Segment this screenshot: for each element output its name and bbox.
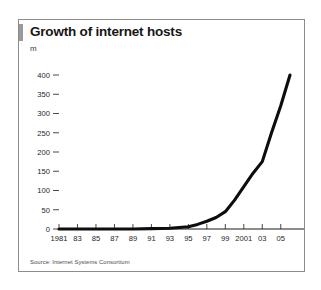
series-internet-hosts-line bbox=[59, 75, 290, 229]
x-tick-label: 87 bbox=[110, 234, 118, 243]
y-tick-label: 100 bbox=[37, 186, 50, 195]
y-tick-label: 200 bbox=[37, 148, 50, 157]
y-tick-label: 150 bbox=[37, 167, 50, 176]
source-note: Source: Internet Systems Consortium bbox=[30, 259, 130, 265]
x-tick-label: 93 bbox=[166, 234, 174, 243]
x-tick-label: 89 bbox=[129, 234, 137, 243]
plot-area: 050100150200250300350400 198183858789919… bbox=[19, 20, 304, 271]
x-tick-label: 91 bbox=[147, 234, 155, 243]
y-tick-label: 400 bbox=[37, 71, 50, 80]
chart-card: Growth of internet hosts m 0501001502002… bbox=[18, 19, 305, 272]
y-axis-tick-marks bbox=[53, 75, 59, 229]
x-tick-label: 05 bbox=[277, 234, 285, 243]
x-tick-label: 03 bbox=[258, 234, 266, 243]
y-tick-label: 350 bbox=[37, 90, 50, 99]
x-tick-label: 1981 bbox=[51, 234, 68, 243]
y-tick-label: 250 bbox=[37, 129, 50, 138]
x-tick-label: 99 bbox=[221, 234, 229, 243]
x-tick-label: 97 bbox=[203, 234, 211, 243]
x-tick-label: 95 bbox=[184, 234, 192, 243]
y-tick-label: 0 bbox=[46, 225, 50, 234]
y-tick-label: 300 bbox=[37, 109, 50, 118]
x-tick-label: 85 bbox=[92, 234, 100, 243]
x-axis-tick-labels: 198183858789919395979920010305 bbox=[51, 234, 285, 243]
y-tick-label: 50 bbox=[42, 206, 50, 215]
x-tick-label: 83 bbox=[73, 234, 81, 243]
y-axis-tick-labels: 050100150200250300350400 bbox=[37, 71, 50, 234]
x-tick-label: 2001 bbox=[235, 234, 252, 243]
line-chart-svg: 050100150200250300350400 198183858789919… bbox=[19, 20, 304, 271]
